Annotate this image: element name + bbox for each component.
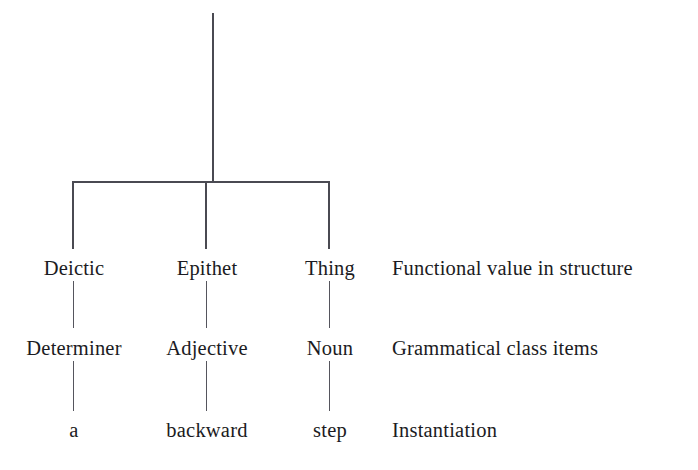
constituent-tree-diagram: Deictic Epithet Thing Functional value i… [0, 0, 698, 470]
root-stem-line [212, 13, 214, 183]
row-annotation-grammatical-class: Grammatical class items [392, 338, 598, 359]
row-annotation-functional-value: Functional value in structure [392, 258, 633, 279]
branch-drop-line-deictic [72, 181, 74, 249]
node-thing: Thing [305, 258, 355, 279]
connector-determiner-a [73, 361, 74, 411]
node-instance-backward: backward [166, 420, 247, 441]
node-determiner: Determiner [26, 338, 121, 359]
branch-drop-line-thing [328, 181, 330, 249]
node-adjective: Adjective [166, 338, 248, 359]
connector-adjective-backward [206, 361, 207, 411]
node-deictic: Deictic [44, 258, 105, 279]
connector-deictic-determiner [73, 281, 74, 328]
connector-thing-noun [329, 281, 330, 328]
branch-drop-line-epithet [205, 181, 207, 249]
node-instance-step: step [313, 420, 347, 441]
row-annotation-instantiation: Instantiation [392, 420, 497, 441]
branch-horizontal-bar [73, 181, 330, 183]
node-epithet: Epithet [177, 258, 238, 279]
connector-epithet-adjective [206, 281, 207, 328]
node-instance-a: a [69, 420, 78, 441]
node-noun: Noun [307, 338, 353, 359]
connector-noun-step [329, 361, 330, 411]
